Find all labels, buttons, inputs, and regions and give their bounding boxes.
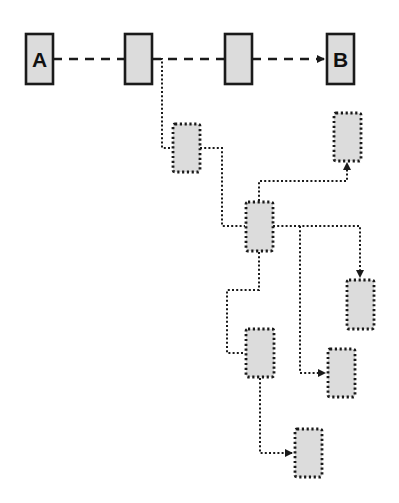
edge-n2-to-d1 — [152, 59, 172, 148]
edge-d1-to-d3 — [200, 148, 245, 226]
node-d4[interactable] — [347, 280, 374, 329]
node-b[interactable] — [327, 34, 354, 84]
edge-d3-to-d4 — [273, 226, 360, 277]
edge-d3-to-d2 — [259, 163, 347, 201]
branch-nodes — [173, 113, 374, 477]
node-d2[interactable] — [334, 113, 361, 161]
node-d5[interactable] — [246, 329, 274, 377]
node-n3[interactable] — [225, 34, 252, 84]
node-a[interactable] — [26, 34, 53, 84]
edge-d5-to-d7 — [260, 378, 292, 453]
edge-d3-to-d6 — [300, 226, 325, 373]
node-d3[interactable] — [246, 202, 273, 251]
node-n2[interactable] — [125, 34, 152, 84]
node-d6[interactable] — [328, 349, 355, 397]
node-d1[interactable] — [173, 124, 200, 172]
node-d7[interactable] — [295, 429, 322, 477]
flow-diagram — [0, 0, 399, 503]
